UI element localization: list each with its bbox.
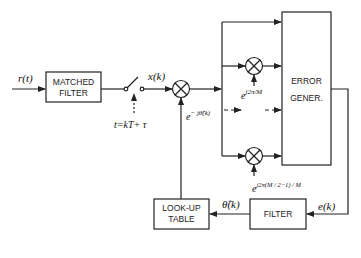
matched-filter-label-2: FILTER bbox=[59, 88, 88, 98]
sampling-switch bbox=[127, 77, 138, 88]
lookup-label-1: LOOK-UP bbox=[162, 203, 201, 213]
error-signal-label: e(k) bbox=[318, 200, 335, 213]
filter-label: FILTER bbox=[264, 209, 293, 219]
lookup-label-2: TABLE bbox=[168, 214, 195, 224]
switch-contact-right bbox=[140, 87, 144, 91]
input-signal-label: r(t) bbox=[18, 72, 33, 85]
derotation-label: e− jθ̂(k) bbox=[186, 109, 211, 122]
error-generator-block bbox=[282, 12, 331, 165]
branchN-phasor-label: ej2π(M / 2−1) / M bbox=[252, 181, 302, 194]
branch1-phasor-label: ej2π/M bbox=[241, 88, 263, 101]
matched-filter-label-1: MATCHED bbox=[53, 77, 94, 87]
derotation-mixer bbox=[173, 81, 190, 98]
phase-estimate-label: θ̂(k) bbox=[222, 198, 240, 211]
error-gen-label-1: ERROR bbox=[291, 76, 322, 86]
phase-recovery-block-diagram: MATCHED FILTER ERROR GENER. FILTER LOOK-… bbox=[0, 0, 361, 258]
error-gen-label-2: GENER. bbox=[290, 93, 323, 103]
branch-mixer-n bbox=[246, 148, 263, 165]
branch-mixer-1 bbox=[246, 58, 263, 75]
sampling-instant-label: t=kT+ τ bbox=[114, 119, 147, 130]
sample-signal-label: x(k) bbox=[147, 70, 165, 83]
